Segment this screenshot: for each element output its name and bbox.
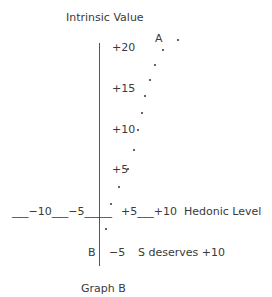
data-point — [177, 39, 179, 41]
data-point — [141, 112, 143, 114]
y-tick-20: +20 — [112, 41, 135, 54]
data-point — [149, 79, 151, 81]
point-a-label: A — [155, 32, 163, 45]
data-point — [118, 186, 120, 188]
graph-caption: Graph B — [81, 282, 126, 295]
y-tick-15: +15 — [112, 82, 135, 95]
x-axis-left: ___−10___−5_____ — [12, 205, 112, 218]
x-axis-right: +5___+10 — [121, 205, 177, 218]
deserves-annotation: S deserves +10 — [138, 246, 225, 259]
y-axis-line — [99, 43, 100, 266]
x-axis-title: Hedonic Level — [184, 205, 261, 218]
data-point — [127, 168, 129, 170]
y-axis-title: Intrinsic Value — [66, 11, 144, 24]
data-point — [137, 129, 139, 131]
data-point — [110, 203, 112, 205]
data-point — [154, 64, 156, 66]
data-point — [105, 228, 107, 230]
data-point — [162, 49, 164, 51]
y-tick-10: +10 — [112, 123, 135, 136]
data-point — [144, 95, 146, 97]
y-tick-5: +5 — [112, 163, 128, 176]
y-tick-minus-5: −5 — [109, 246, 125, 259]
data-point — [133, 149, 135, 151]
point-b-label: B — [88, 246, 96, 259]
